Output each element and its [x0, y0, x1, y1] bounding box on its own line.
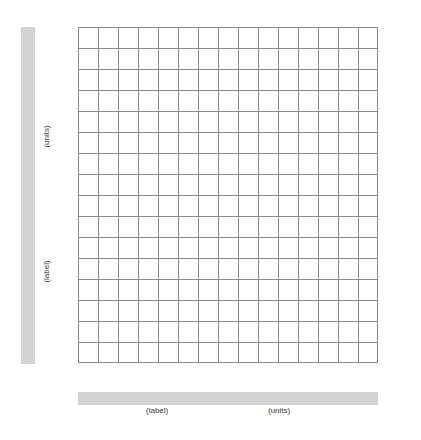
x-axis-name-label: (label) [146, 406, 168, 415]
x-axis-title-band [78, 392, 378, 405]
y-axis-label-group: (units) (label) [35, 27, 57, 364]
y-axis-units-label: (units) [35, 132, 57, 141]
grid-lines-svg [78, 27, 378, 363]
plot-grid-area [78, 27, 378, 363]
y-axis-name-label: (label) [35, 267, 57, 276]
x-axis-units-label: (units) [268, 406, 290, 415]
y-axis-units-text: (units) [42, 125, 51, 147]
x-axis-label-group: (label) (units) [78, 406, 378, 420]
grid-horizontal-lines [78, 49, 378, 343]
figure-canvas: (units) (label) (label) (units) [0, 0, 421, 440]
y-axis-title-band [21, 27, 35, 364]
y-axis-name-text: (label) [42, 260, 51, 282]
